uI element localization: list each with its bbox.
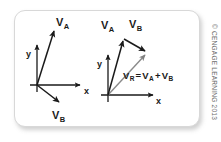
copyright-credit: © CENGAGE LEARNING 2013: [208, 8, 220, 136]
copyright-credit-text: © CENGAGE LEARNING 2013: [211, 24, 218, 120]
left-vector-vb-label: VB: [52, 109, 66, 124]
resultant-vector-panel: x y VA VB VR=VA+VB: [97, 18, 173, 106]
vector-diagram: x y VA VB x y VA: [0, 0, 221, 142]
right-x-axis-label: x: [156, 96, 161, 106]
right-vector-vb-label: VB: [129, 18, 143, 33]
left-vector-va: [37, 31, 54, 85]
left-x-axis-label: x: [84, 86, 89, 96]
separate-vectors-panel: x y VA VB: [26, 16, 89, 124]
right-vector-va-label: VA: [101, 19, 115, 34]
figure-root: x y VA VB x y VA: [0, 0, 221, 142]
resultant-equation: VR=VA+VB: [123, 70, 173, 82]
left-vector-vb: [37, 85, 59, 102]
left-vector-va-label: VA: [56, 16, 70, 31]
right-vector-vb: [124, 39, 145, 51]
left-y-axis-label: y: [26, 49, 31, 59]
right-y-axis-label: y: [97, 59, 102, 69]
